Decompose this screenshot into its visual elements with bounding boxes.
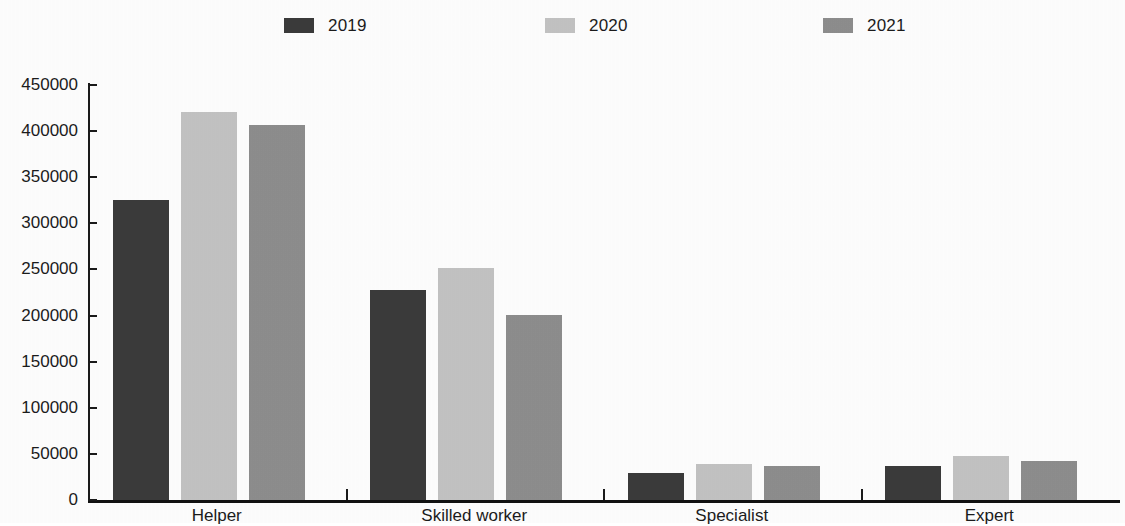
legend-swatch-icon <box>545 18 575 33</box>
legend-label: 2020 <box>589 18 628 33</box>
y-axis-tick-label: 450000 <box>21 75 78 95</box>
legend-swatch-icon <box>284 18 314 33</box>
y-axis-tick-mark <box>88 361 97 363</box>
x-axis-group-tick <box>346 489 348 500</box>
y-axis-tick-labels: 4500004000003500003000002500002000001500… <box>0 0 78 523</box>
chart-legend: 2019 2020 2021 <box>0 18 1125 52</box>
bar-expert-2020 <box>953 456 1009 500</box>
y-axis-tick-label: 50000 <box>31 444 78 464</box>
plot-area <box>88 85 1118 500</box>
x-axis-group-tick <box>861 489 863 500</box>
y-axis-tick-label: 150000 <box>21 352 78 372</box>
y-axis-tick-mark <box>88 315 97 317</box>
y-axis-tick-label: 300000 <box>21 213 78 233</box>
legend-item-2020: 2020 <box>545 18 628 33</box>
bar-helper-2021 <box>249 125 305 500</box>
x-axis-category-label: Expert <box>861 506 1119 526</box>
legend-label: 2019 <box>328 18 367 33</box>
y-axis-tick-mark <box>88 268 97 270</box>
x-axis-line <box>88 500 1120 503</box>
x-axis-category-label: Helper <box>88 506 346 526</box>
y-axis-tick-label: 100000 <box>21 398 78 418</box>
y-axis-tick-mark <box>88 453 97 455</box>
x-axis-group-tick <box>603 489 605 500</box>
bar-skilled-worker-2019 <box>370 290 426 500</box>
y-axis-tick-mark <box>88 130 97 132</box>
x-axis-category-label: Specialist <box>603 506 861 526</box>
y-axis-tick-label: 350000 <box>21 167 78 187</box>
bar-specialist-2021 <box>764 466 820 500</box>
bar-skilled-worker-2021 <box>506 315 562 500</box>
bar-helper-2019 <box>113 200 169 500</box>
y-axis-tick-mark <box>88 176 97 178</box>
y-axis-tick-label: 0 <box>69 490 78 510</box>
y-axis-tick-mark <box>88 499 97 501</box>
y-axis-tick-mark <box>88 407 97 409</box>
bar-expert-2021 <box>1021 461 1077 500</box>
legend-item-2019: 2019 <box>284 18 367 33</box>
legend-item-2021: 2021 <box>823 18 906 33</box>
bar-specialist-2020 <box>696 464 752 500</box>
y-axis-tick-label: 400000 <box>21 121 78 141</box>
bar-specialist-2019 <box>628 473 684 500</box>
y-axis-tick-mark <box>88 222 97 224</box>
y-axis-tick-mark <box>88 84 97 86</box>
legend-label: 2021 <box>867 18 906 33</box>
y-axis-tick-label: 200000 <box>21 306 78 326</box>
bar-helper-2020 <box>181 112 237 500</box>
legend-swatch-icon <box>823 18 853 33</box>
y-axis-line <box>88 83 90 502</box>
x-axis-category-label: Skilled worker <box>346 506 604 526</box>
bar-expert-2019 <box>885 466 941 500</box>
bar-skilled-worker-2020 <box>438 268 494 500</box>
y-axis-tick-label: 250000 <box>21 259 78 279</box>
